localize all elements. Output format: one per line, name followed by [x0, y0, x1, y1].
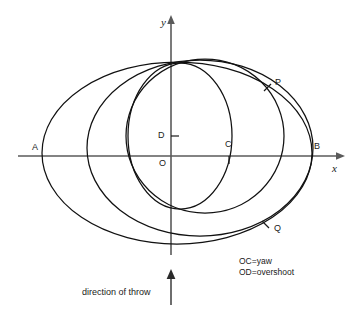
- diagram-svg: [0, 0, 351, 314]
- point-label-d: D: [158, 131, 165, 140]
- point-label-c: C: [225, 140, 232, 149]
- curve-group: [42, 59, 313, 244]
- point-label-p: P: [275, 78, 281, 87]
- large-circle-curve: [126, 59, 284, 213]
- direction-of-throw-arrow: [167, 269, 176, 305]
- point-label-q: Q: [274, 224, 281, 233]
- point-label-b: B: [314, 142, 320, 151]
- point-label-o: O: [159, 159, 166, 168]
- small-circle-curve: [128, 63, 232, 209]
- x-axis-label: x: [332, 163, 337, 174]
- diagram-canvas: y x A B P Q O C D OC=yaw OD=overshoot di…: [0, 0, 351, 314]
- axis-group: [18, 15, 345, 255]
- legend-line-overshoot: OD=overshoot: [239, 267, 294, 278]
- direction-of-throw-label: direction of throw: [82, 287, 151, 297]
- point-label-a: A: [32, 143, 38, 152]
- legend-line-yaw: OC=yaw: [239, 256, 294, 267]
- y-axis-label: y: [161, 17, 166, 28]
- y-axis-arrowhead: [167, 15, 175, 24]
- x-axis-arrowhead: [336, 152, 345, 160]
- throw-arrow-head: [167, 269, 176, 279]
- legend-box: OC=yaw OD=overshoot: [239, 256, 294, 278]
